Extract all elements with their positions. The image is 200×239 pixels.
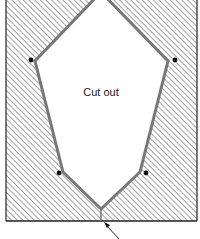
dot-lower-right <box>144 171 149 176</box>
dot-upper-left <box>29 58 34 63</box>
cutout-label: Cut out <box>83 86 118 98</box>
cutout-diagram: Cut out <box>0 0 200 239</box>
dot-upper-right <box>173 58 178 63</box>
pointer-arrow <box>104 222 119 239</box>
dot-lower-left <box>57 171 62 176</box>
